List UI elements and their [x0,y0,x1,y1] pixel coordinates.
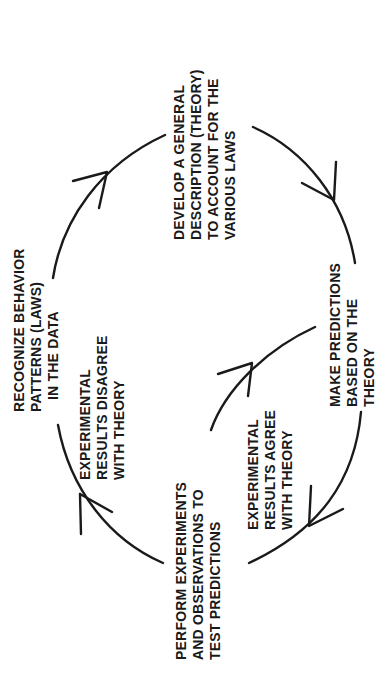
svg-text:DEVELOP A GENERAL: DEVELOP A GENERAL [171,84,187,240]
node-develop-line-2: DESCRIPTION (THEORY) [188,69,204,240]
svg-text:PERFORM EXPERIMENTS: PERFORM EXPERIMENTS [173,482,189,660]
node-develop-theory: DEVELOP A GENERAL DESCRIPTION (THEORY) T… [171,69,238,240]
edge-disagree-line-3: WITH THEORY [111,380,127,480]
edge-label-agree: EXPERIMENTAL RESULTS AGREE WITH THEORY [245,410,295,530]
svg-text:TEST PREDICTIONS: TEST PREDICTIONS [207,521,223,660]
svg-text:WITH THEORY: WITH THEORY [279,430,295,530]
svg-text:AND OBSERVATIONS TO: AND OBSERVATIONS TO [190,489,206,660]
node-recognize-line-2: PATTERNS (LAWS) [28,282,44,412]
svg-text:THEORY: THEORY [361,348,377,407]
node-predict-line-1: MAKE PREDICTIONS [327,263,343,407]
svg-text:PATTERNS (LAWS): PATTERNS (LAWS) [28,282,44,412]
svg-text:RESULTS DISAGREE: RESULTS DISAGREE [94,335,110,480]
svg-text:WITH THEORY: WITH THEORY [111,380,127,480]
node-predict-line-3: THEORY [361,348,377,407]
svg-text:DESCRIPTION (THEORY): DESCRIPTION (THEORY) [188,69,204,240]
arrow-develop-to-predict [253,127,355,263]
arrowhead-icon [218,363,252,396]
node-perform-experiments: PERFORM EXPERIMENTS AND OBSERVATIONS TO … [173,482,223,660]
svg-text:EXPERIMENTAL: EXPERIMENTAL [77,369,93,480]
arrow-recognize-to-develop [53,135,165,278]
node-perform-line-3: TEST PREDICTIONS [207,521,223,660]
edge-agree-line-1: EXPERIMENTAL [245,419,261,530]
svg-text:VARIOUS LAWS: VARIOUS LAWS [222,131,238,240]
node-develop-line-4: VARIOUS LAWS [222,131,238,240]
svg-text:RECOGNIZE BEHAVIOR: RECOGNIZE BEHAVIOR [11,248,27,412]
node-develop-line-1: DEVELOP A GENERAL [171,84,187,240]
svg-text:TO ACCOUNT FOR THE: TO ACCOUNT FOR THE [205,79,221,240]
edge-label-disagree: EXPERIMENTAL RESULTS DISAGREE WITH THEOR… [77,335,127,480]
edge-disagree-line-2: RESULTS DISAGREE [94,335,110,480]
edge-disagree-line-1: EXPERIMENTAL [77,369,93,480]
node-perform-line-2: AND OBSERVATIONS TO [190,489,206,660]
scientific-method-cycle-diagram: RECOGNIZE BEHAVIOR PATTERNS (LAWS) IN TH… [0,0,391,687]
node-perform-line-1: PERFORM EXPERIMENTS [173,482,189,660]
svg-text:EXPERIMENTAL: EXPERIMENTAL [245,419,261,530]
svg-text:BASED ON THE: BASED ON THE [344,299,360,407]
svg-text:MAKE PREDICTIONS: MAKE PREDICTIONS [327,263,343,407]
arrowhead-icon [80,494,112,534]
node-recognize-line-1: RECOGNIZE BEHAVIOR [11,248,27,412]
edge-agree-line-2: RESULTS AGREE [262,410,278,530]
node-predict-line-2: BASED ON THE [344,299,360,407]
node-recognize-line-3: IN THE DATA [45,311,61,400]
arrowhead-icon [73,172,107,208]
svg-text:RESULTS AGREE: RESULTS AGREE [262,410,278,530]
edge-agree-line-3: WITH THEORY [279,430,295,530]
node-make-predictions: MAKE PREDICTIONS BASED ON THE THEORY [327,263,377,407]
node-develop-line-3: TO ACCOUNT FOR THE [205,79,221,240]
svg-text:IN THE DATA: IN THE DATA [45,311,61,400]
